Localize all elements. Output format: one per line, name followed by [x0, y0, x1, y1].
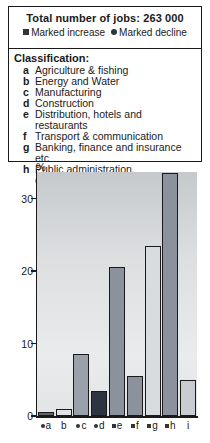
- y-tick-label: 10: [8, 338, 33, 350]
- y-tick-label: 0: [8, 410, 33, 422]
- y-axis-line: [36, 170, 38, 417]
- x-axis-line: [36, 416, 198, 418]
- circle-marker-icon: [76, 424, 80, 428]
- bar-e: [109, 267, 125, 416]
- y-tick-label: 20: [8, 265, 33, 277]
- circle-marker-icon: [94, 424, 98, 428]
- bar-i: [180, 380, 196, 416]
- x-label-text: e: [117, 420, 123, 431]
- x-label-text: d: [99, 420, 105, 431]
- bar-h: [162, 173, 178, 416]
- x-label-text: f: [136, 420, 139, 431]
- employment-change-figure: Total number of jobs: 263 000 Marked inc…: [0, 0, 210, 443]
- x-label-text: a: [46, 420, 52, 431]
- x-label-i: i: [178, 420, 198, 431]
- circle-marker-icon: [41, 424, 45, 428]
- x-label-text: h: [170, 420, 176, 431]
- bar-f: [127, 376, 143, 416]
- bar-d: [91, 391, 107, 416]
- square-marker-icon: [131, 424, 135, 428]
- x-label-text: i: [187, 420, 189, 431]
- square-marker-icon: [165, 424, 169, 428]
- square-marker-icon: [112, 424, 116, 428]
- bar-b: [56, 409, 72, 416]
- bar-chart: % 0102030 abcdefghi: [0, 0, 210, 443]
- x-label-text: c: [81, 420, 86, 431]
- bar-c: [73, 354, 89, 416]
- x-label-text: g: [152, 420, 158, 431]
- bar-g: [145, 246, 161, 416]
- x-label-text: b: [61, 420, 67, 431]
- square-marker-icon: [147, 424, 151, 428]
- y-tick-label: 30: [8, 193, 33, 205]
